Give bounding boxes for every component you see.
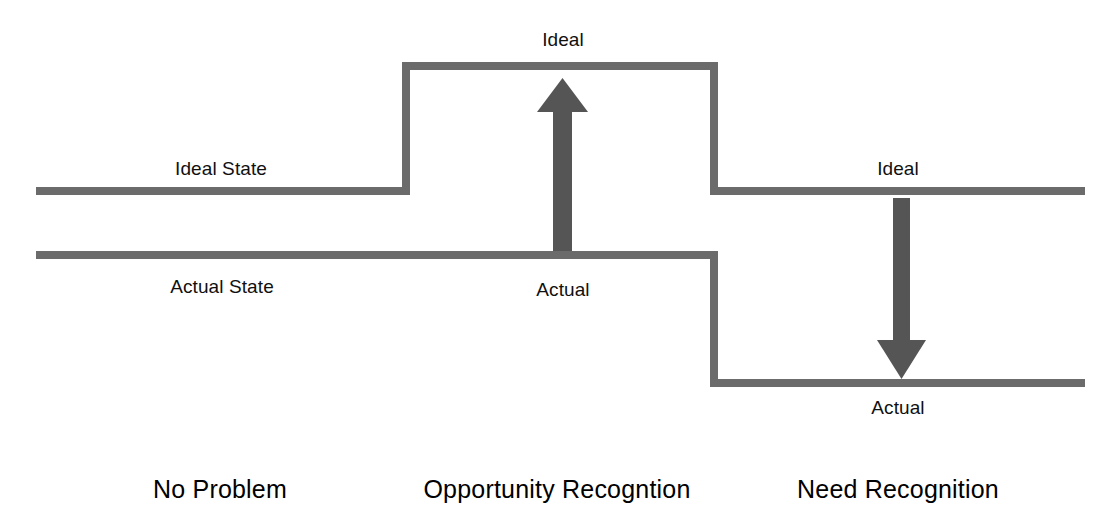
caption-need-recognition: Need Recognition [797, 477, 999, 502]
caption-no-problem: No Problem [153, 477, 287, 502]
label-actual-middle: Actual [536, 280, 589, 299]
label-ideal-state-left: Ideal State [175, 159, 267, 178]
diagram-canvas: Ideal State Actual State Ideal Actual Id… [0, 0, 1117, 529]
label-ideal-right: Ideal [877, 159, 919, 178]
arrow-up-icon [537, 78, 588, 251]
caption-opportunity-recognition: Opportunity Recogntion [423, 477, 690, 502]
actual-state-line [36, 255, 1085, 383]
label-actual-state-left: Actual State [170, 277, 274, 296]
arrow-down-icon [877, 198, 926, 379]
label-ideal-middle: Ideal [542, 30, 584, 49]
gap-diagram [0, 0, 1117, 529]
label-actual-right: Actual [871, 398, 924, 417]
